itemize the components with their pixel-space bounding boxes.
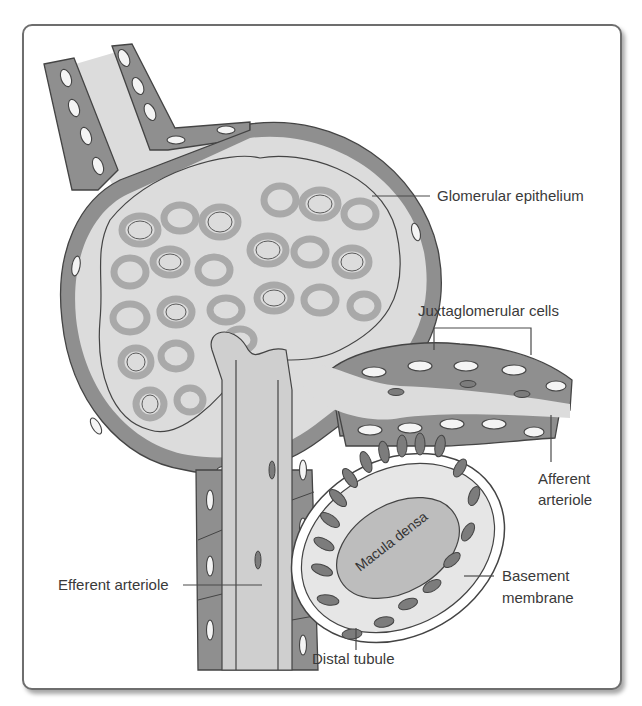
afferent-arteriole-label-line2: arteriole	[538, 491, 592, 508]
basement-membrane-label-line2: membrane	[502, 589, 574, 606]
efferent-arteriole-label: Efferent arteriole	[58, 576, 169, 593]
juxtaglomerular-cells-label: Juxtaglomerular cells	[418, 302, 559, 319]
basement-membrane-label-line1: Basement	[502, 567, 570, 584]
distal-tubule-label: Distal tubule	[312, 650, 395, 667]
afferent-arteriole-label-line1: Afferent	[538, 470, 591, 487]
juxtaglomerular-diagram: Macula densa Glomerular epithelium Juxta…	[0, 0, 642, 706]
glomerular-epithelium-label: Glomerular epithelium	[437, 187, 584, 204]
